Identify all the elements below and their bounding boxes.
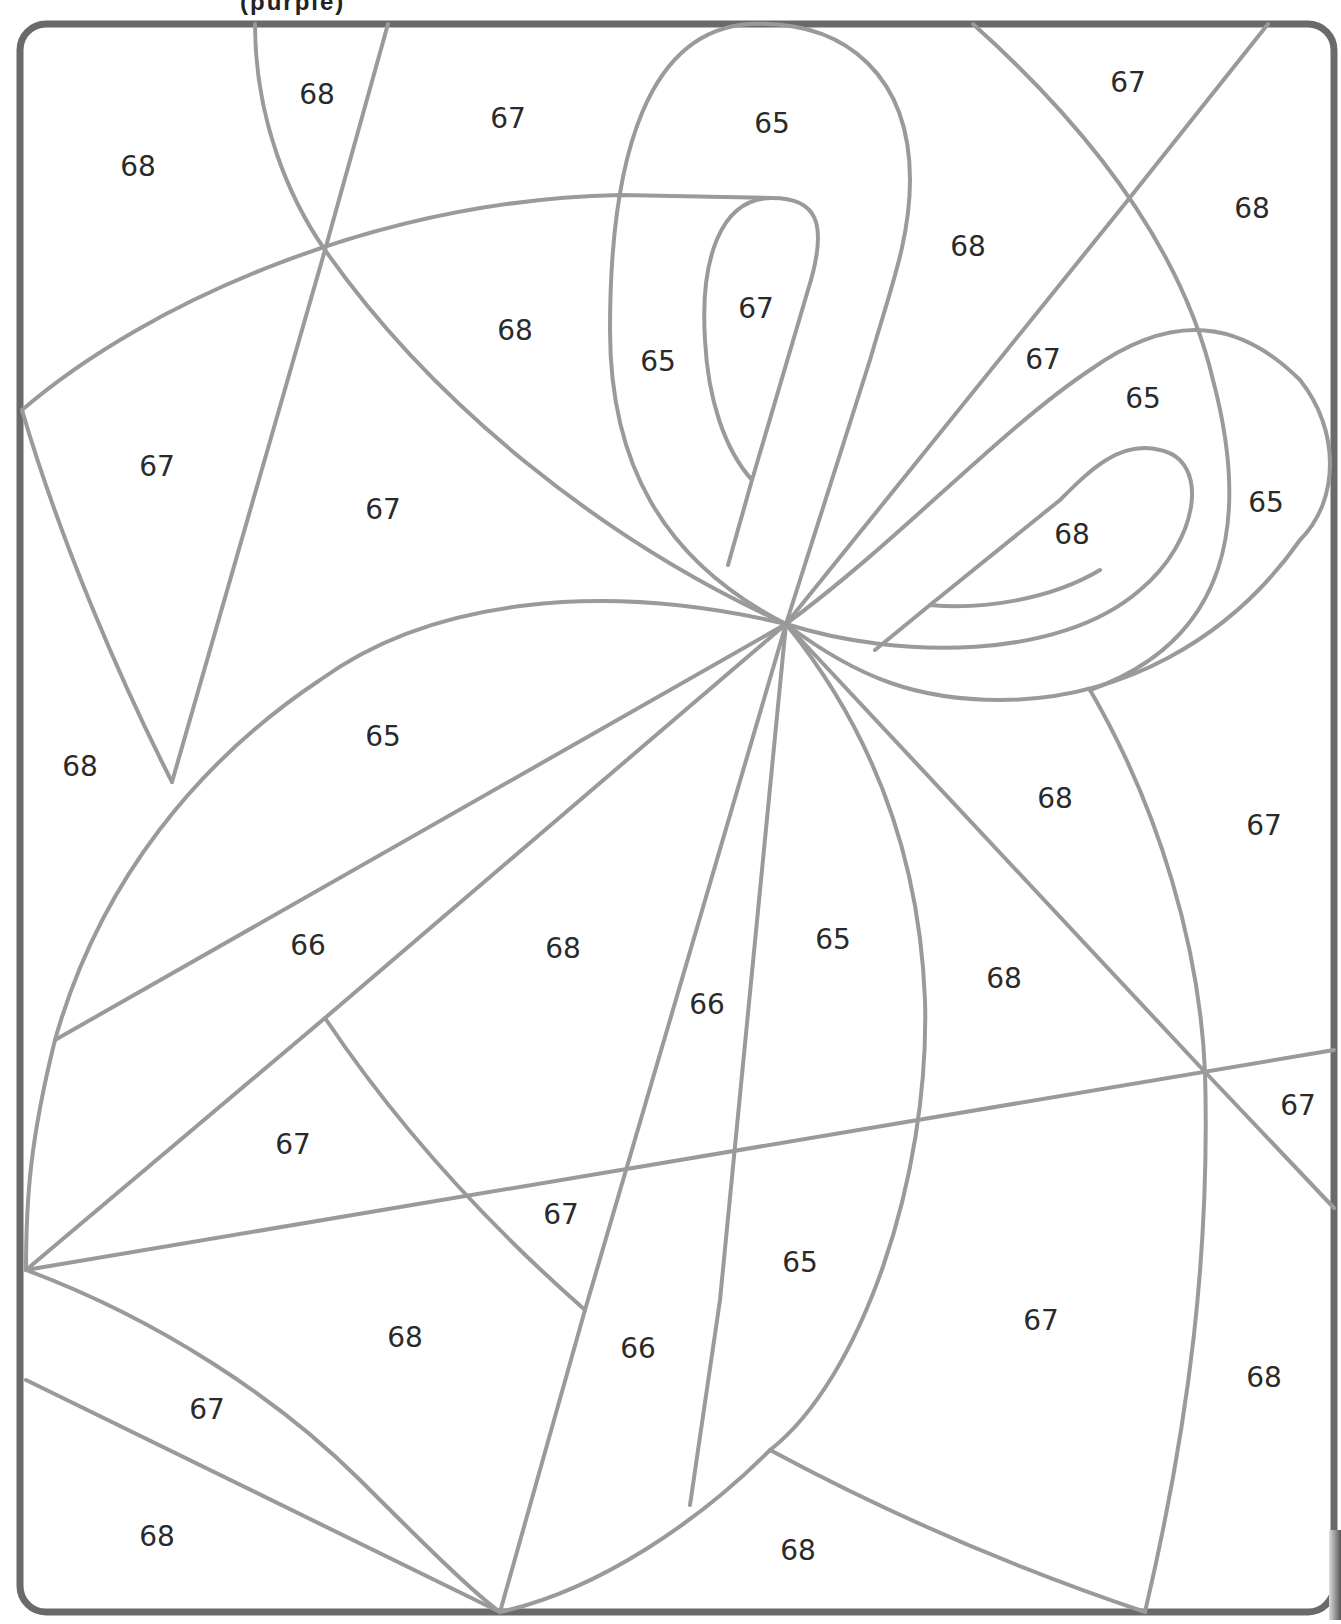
region-number[interactable]: 68 bbox=[950, 230, 986, 263]
region-number[interactable]: 68 bbox=[387, 1321, 423, 1354]
region-number[interactable]: 67 bbox=[189, 1393, 225, 1426]
region-number[interactable]: 67 bbox=[1023, 1304, 1059, 1337]
region-number[interactable]: 67 bbox=[365, 493, 401, 526]
region-number[interactable]: 66 bbox=[689, 988, 725, 1021]
region-number[interactable]: 65 bbox=[640, 345, 676, 378]
region-number[interactable]: 68 bbox=[1246, 1361, 1282, 1394]
region-number[interactable]: 67 bbox=[1110, 66, 1146, 99]
region-number[interactable]: 65 bbox=[782, 1246, 818, 1279]
region-number[interactable]: 67 bbox=[738, 292, 774, 325]
region-number[interactable]: 67 bbox=[543, 1198, 579, 1231]
page-edge-shadow bbox=[1329, 1530, 1341, 1620]
region-number[interactable]: 65 bbox=[1248, 486, 1284, 519]
region-number[interactable]: 65 bbox=[1125, 382, 1161, 415]
region-number[interactable]: 68 bbox=[139, 1520, 175, 1553]
region-number[interactable]: 67 bbox=[275, 1128, 311, 1161]
region-number[interactable]: 68 bbox=[545, 932, 581, 965]
outline-lines bbox=[22, 24, 1334, 1612]
region-number[interactable]: 65 bbox=[754, 107, 790, 140]
region-number[interactable]: 67 bbox=[1280, 1089, 1316, 1122]
region-number[interactable]: 65 bbox=[815, 923, 851, 956]
region-number[interactable]: 68 bbox=[299, 78, 335, 111]
region-number[interactable]: 66 bbox=[290, 929, 326, 962]
region-number[interactable]: 68 bbox=[120, 150, 156, 183]
region-numbers: 68 67 68 65 67 68 68 68 67 65 67 65 65 6… bbox=[62, 66, 1316, 1567]
region-number[interactable]: 68 bbox=[497, 314, 533, 347]
region-number[interactable]: 67 bbox=[490, 102, 526, 135]
region-number[interactable]: 67 bbox=[1246, 809, 1282, 842]
region-number[interactable]: 68 bbox=[780, 1534, 816, 1567]
region-number[interactable]: 67 bbox=[1025, 343, 1061, 376]
region-number[interactable]: 66 bbox=[620, 1332, 656, 1365]
color-by-number-board: 68 67 68 65 67 68 68 68 67 65 67 65 65 6… bbox=[0, 0, 1341, 1624]
region-number[interactable]: 68 bbox=[1234, 192, 1270, 225]
region-number[interactable]: 67 bbox=[139, 450, 175, 483]
region-number[interactable]: 68 bbox=[62, 750, 98, 783]
region-number[interactable]: 68 bbox=[986, 962, 1022, 995]
region-number[interactable]: 68 bbox=[1054, 518, 1090, 551]
puzzle-frame bbox=[20, 24, 1334, 1612]
region-number[interactable]: 68 bbox=[1037, 782, 1073, 815]
region-number[interactable]: 65 bbox=[365, 720, 401, 753]
